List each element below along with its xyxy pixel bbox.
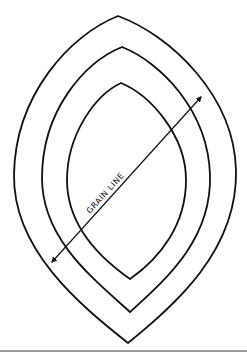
- grain-line-arrow: [52, 97, 201, 262]
- inner-outline: [67, 83, 186, 279]
- bottom-rule: [0, 350, 247, 352]
- pattern-diagram: GRAIN LINE: [0, 0, 247, 357]
- grain-line-label: GRAIN LINE: [85, 171, 126, 215]
- outer-outline: [14, 16, 236, 343]
